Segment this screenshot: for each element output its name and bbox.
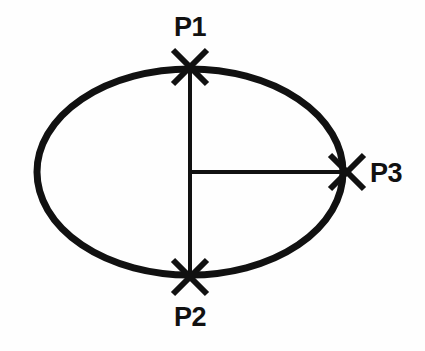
figure-canvas: P1 P2 P3 bbox=[0, 0, 425, 351]
point-label-p2: P2 bbox=[174, 302, 206, 332]
point-label-p1: P1 bbox=[174, 12, 207, 42]
point-label-p3: P3 bbox=[370, 158, 403, 188]
canvas-background bbox=[0, 0, 425, 351]
ellipse-diagram: P1 P2 P3 bbox=[0, 0, 425, 351]
